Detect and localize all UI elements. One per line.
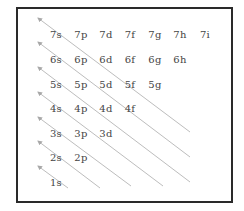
orbital-label: 5f [125, 80, 136, 90]
orbital-label: 6g [148, 55, 161, 65]
orbital-label: 6h [173, 55, 186, 65]
orbital-label: 3s [50, 129, 62, 139]
orbital-label: 7d [99, 30, 112, 40]
orbital-label: 7s [50, 30, 62, 40]
orbital-label: 2s [50, 153, 62, 163]
orbital-label: 6s [50, 55, 62, 65]
orbital-label: 7g [148, 30, 161, 40]
orbital-label: 5s [50, 80, 62, 90]
orbital-label: 7i [200, 30, 210, 40]
orbital-label: 3p [74, 129, 87, 139]
orbital-label: 6f [125, 55, 136, 65]
orbital-label: 5p [74, 80, 87, 90]
arrow-6 [38, 141, 100, 188]
orbital-label: 5d [99, 80, 112, 90]
orbital-label: 7f [125, 30, 136, 40]
orbital-label: 5g [148, 80, 161, 90]
orbital-label: 6p [74, 55, 87, 65]
orbital-label: 4p [74, 104, 87, 114]
orbital-label: 7p [74, 30, 87, 40]
orbital-label: 4s [50, 104, 62, 114]
orbital-label: 6d [99, 55, 112, 65]
orbital-label: 3d [99, 129, 112, 139]
orbital-label: 2p [74, 153, 87, 163]
orbital-label: 4d [99, 104, 112, 114]
orbital-label: 4f [125, 104, 136, 114]
orbital-label: 1s [50, 178, 62, 188]
orbital-label: 7h [173, 30, 186, 40]
